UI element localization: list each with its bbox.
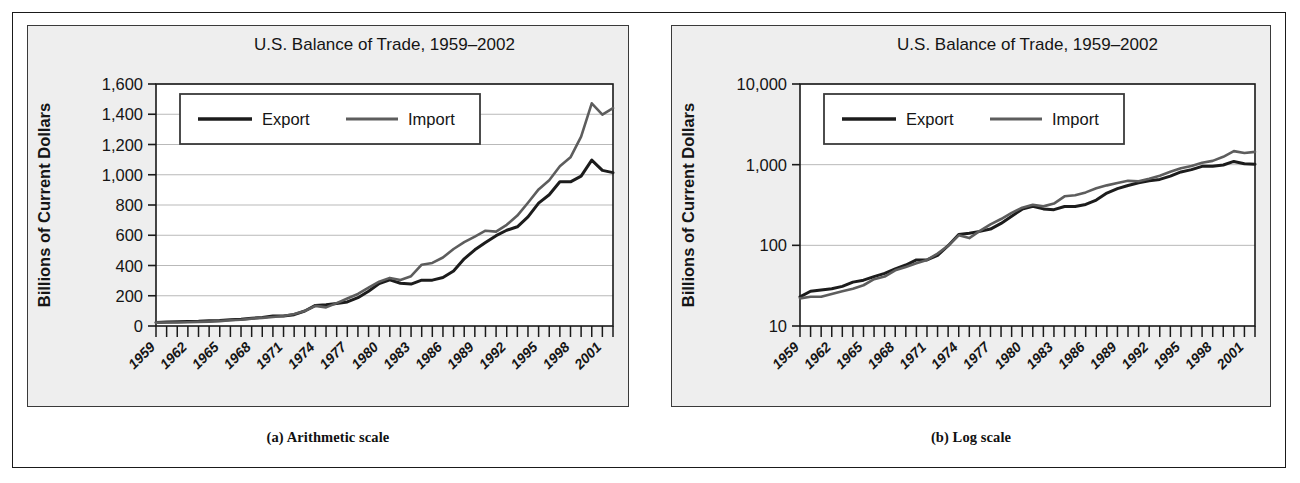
x-tick-label: 1971 (896, 339, 929, 372)
y-tick-label: 600 (115, 226, 143, 244)
x-tick-label: 1995 (507, 339, 540, 372)
x-tick-label: 1992 (475, 339, 508, 372)
chart-log-scale: U.S. Balance of Trade, 1959–2002Billions… (672, 26, 1269, 405)
x-tick-label: 1968 (864, 339, 897, 372)
x-tick-label: 1980 (348, 339, 381, 372)
x-tick-label: 1995 (1150, 339, 1183, 372)
panels-container: U.S. Balance of Trade, 1959–2002Billions… (13, 13, 1285, 467)
x-tick-label: 1974 (927, 339, 960, 372)
x-tick-label: 1998 (1181, 339, 1214, 372)
x-tick-label: 1983 (380, 339, 413, 372)
chart-arithmetic-scale: U.S. Balance of Trade, 1959–2002Billions… (28, 26, 627, 405)
y-tick-label: 800 (115, 196, 143, 214)
y-tick-label: 100 (759, 236, 787, 254)
y-tick-label: 1,600 (102, 75, 143, 93)
panel-log: U.S. Balance of Trade, 1959–2002Billions… (671, 25, 1271, 446)
x-tick-label: 1980 (991, 339, 1024, 372)
x-tick-label: 1989 (444, 339, 477, 372)
x-tick-label: 1965 (832, 339, 865, 372)
y-tick-label: 1,000 (102, 166, 143, 184)
y-tick-label: 1,400 (102, 105, 143, 123)
y-axis-title: Billions of Current Dollars (679, 103, 697, 307)
chart-title: U.S. Balance of Trade, 1959–2002 (254, 35, 515, 54)
x-tick-label: 1962 (801, 339, 834, 372)
caption-arithmetic: (a) Arithmetic scale (267, 429, 390, 446)
y-tick-label: 1,200 (102, 136, 143, 154)
x-tick-label: 1986 (412, 339, 445, 372)
y-tick-label: 400 (115, 257, 143, 275)
legend-label-export: Export (262, 110, 310, 128)
x-tick-label: 1989 (1086, 339, 1119, 372)
x-tick-label: 2001 (570, 339, 604, 373)
x-tick-label: 1992 (1118, 339, 1151, 372)
legend-label-export: Export (906, 110, 954, 128)
x-tick-label: 1983 (1023, 339, 1056, 372)
figure-frame: U.S. Balance of Trade, 1959–2002Billions… (12, 12, 1286, 468)
x-tick-label: 1971 (252, 339, 285, 372)
y-axis-title: Billions of Current Dollars (35, 103, 53, 307)
x-tick-label: 2001 (1212, 339, 1246, 373)
chart-title: U.S. Balance of Trade, 1959–2002 (897, 35, 1158, 54)
x-tick-label: 1959 (125, 339, 158, 372)
legend-label-import: Import (1052, 110, 1099, 128)
x-tick-label: 1998 (539, 339, 572, 372)
x-tick-label: 1962 (157, 339, 190, 372)
y-tick-label: 10 (769, 317, 787, 335)
y-tick-label: 200 (115, 287, 143, 305)
x-tick-label: 1977 (316, 338, 350, 372)
chart-box-log: U.S. Balance of Trade, 1959–2002Billions… (671, 25, 1271, 407)
x-tick-label: 1977 (959, 338, 993, 372)
y-tick-label: 10,000 (737, 75, 787, 93)
y-tick-label: 1,000 (746, 156, 787, 174)
chart-box-arithmetic: U.S. Balance of Trade, 1959–2002Billions… (27, 25, 629, 407)
panel-arithmetic: U.S. Balance of Trade, 1959–2002Billions… (27, 25, 629, 446)
x-tick-label: 1959 (769, 339, 802, 372)
x-tick-label: 1986 (1054, 339, 1087, 372)
y-tick-label: 0 (134, 317, 143, 335)
caption-log: (b) Log scale (931, 429, 1011, 446)
x-tick-label: 1974 (284, 339, 317, 372)
x-tick-label: 1968 (220, 339, 253, 372)
legend-label-import: Import (408, 110, 455, 128)
x-tick-label: 1965 (189, 339, 222, 372)
